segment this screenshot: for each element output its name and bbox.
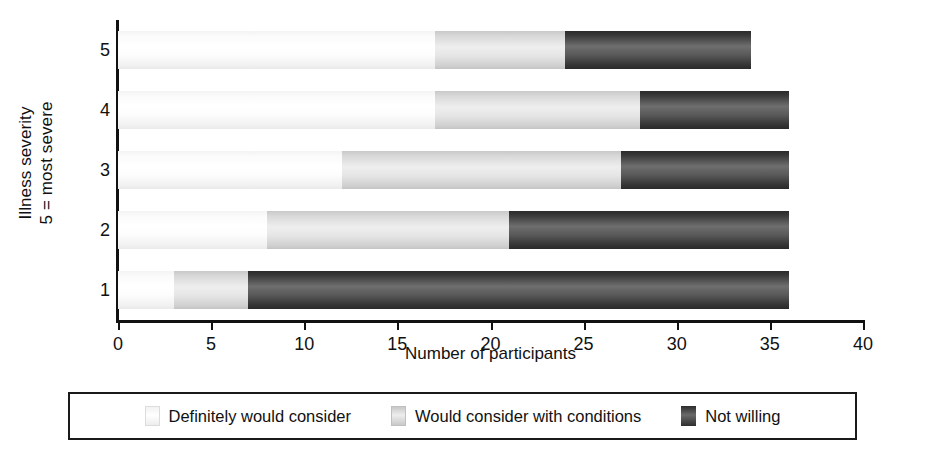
bar-row: [118, 91, 789, 129]
y-axis-tick-label: 1: [84, 281, 110, 299]
y-axis-title-line1: Illness severity: [16, 106, 35, 219]
legend-label: Would consider with conditions: [415, 407, 641, 426]
x-axis-tick-mark: [677, 320, 679, 330]
bar-segment: [118, 31, 435, 69]
bar-row: [118, 31, 751, 69]
legend-swatch: [391, 406, 406, 426]
x-axis-tick-mark: [304, 320, 306, 330]
bar-segment: [248, 271, 788, 309]
legend-swatch: [681, 406, 696, 426]
y-axis-tick-label: 2: [84, 221, 110, 239]
x-axis-tick-mark: [863, 320, 865, 330]
x-axis-tick-mark: [397, 320, 399, 330]
y-axis-tick-label: 3: [84, 161, 110, 179]
y-axis-tick-label: 4: [84, 101, 110, 119]
bar-segment: [174, 271, 249, 309]
bar-segment: [342, 151, 621, 189]
x-axis-tick-mark: [770, 320, 772, 330]
chart-figure: Illness severity 5 = most severe 54321 0…: [0, 0, 925, 462]
x-axis-tick-mark: [211, 320, 213, 330]
legend-item: Would consider with conditions: [391, 406, 641, 426]
legend-item: Definitely would consider: [145, 406, 352, 426]
y-axis-title: Illness severity 5 = most severe: [6, 18, 66, 308]
x-axis-title: Number of participants: [118, 344, 863, 364]
bar-segment: [435, 91, 640, 129]
bar-segment: [621, 151, 789, 189]
plot-area: 0510152025303540: [118, 20, 863, 320]
bar-segment: [509, 211, 788, 249]
bar-row: [118, 211, 789, 249]
y-axis-title-line2: 5 = most severe: [36, 102, 57, 225]
legend-item: Not willing: [681, 406, 780, 426]
chart-legend: Definitely would considerWould consider …: [68, 392, 857, 440]
bar-segment: [640, 91, 789, 129]
x-axis-tick-mark: [118, 320, 120, 330]
bar-segment: [267, 211, 509, 249]
bar-segment: [118, 271, 174, 309]
legend-swatch: [145, 406, 160, 426]
x-axis-tick-mark: [584, 320, 586, 330]
bar-row: [118, 151, 789, 189]
legend-label: Not willing: [705, 407, 780, 426]
legend-label: Definitely would consider: [169, 407, 352, 426]
y-axis-tick-labels: 54321: [74, 20, 110, 320]
bar-segment: [118, 211, 267, 249]
bar-segment: [435, 31, 565, 69]
y-axis-tick-label: 5: [84, 41, 110, 59]
bar-row: [118, 271, 789, 309]
bar-segment: [118, 91, 435, 129]
bar-segment: [118, 151, 342, 189]
x-axis-tick-mark: [491, 320, 493, 330]
bar-segment: [565, 31, 751, 69]
